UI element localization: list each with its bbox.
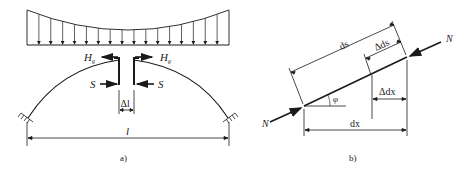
figure-a: Hg Hg S S Δl <box>18 10 238 163</box>
label-delta-ds: Δds <box>372 36 391 52</box>
label-N-left: N <box>261 118 270 129</box>
label-N-right: N <box>445 33 454 44</box>
label-phi: φ <box>333 94 338 104</box>
angle-arc <box>328 95 330 106</box>
arch <box>28 58 228 118</box>
label-H-right: Hg <box>159 51 171 64</box>
label-delta-dx: Δdx <box>379 86 395 97</box>
arrow-N-left <box>270 108 301 122</box>
label-H-left: Hg <box>83 51 95 64</box>
label-S-right: S <box>158 78 164 90</box>
arrow-N-right <box>410 42 441 56</box>
figure-b: φ N N ds Δds Δdx dx <box>261 21 454 163</box>
label-dx: dx <box>350 118 360 129</box>
label-delta-l: Δl <box>121 98 130 109</box>
label-span-l: l <box>126 125 129 137</box>
caption-b: b) <box>349 153 357 163</box>
caption-a: a) <box>120 153 127 163</box>
distributed-load <box>27 10 229 45</box>
load-arrows <box>39 14 217 44</box>
label-S-left: S <box>90 78 96 90</box>
diagram-canvas: Hg Hg S S Δl <box>0 0 468 174</box>
